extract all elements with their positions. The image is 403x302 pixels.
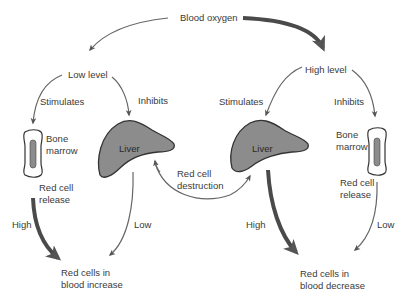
right-result-line2: blood decrease: [300, 280, 365, 292]
arrow-oxygen-to-high: [243, 18, 323, 48]
right-stimulates-label: Stimulates: [219, 96, 263, 108]
right-inhibits-label: Inhibits: [334, 96, 364, 108]
destruction-line1: Red cell: [177, 168, 223, 180]
left-result-label: Red cells in blood increase: [61, 267, 123, 290]
left-low-label: Low: [134, 219, 151, 231]
right-release-line1: Red cell: [340, 177, 374, 189]
arrow-low-inhibits: [112, 77, 129, 115]
right-release-label: Red cell release: [340, 177, 374, 200]
red-cell-destruction-label: Red cell destruction: [177, 168, 223, 191]
right-liver-label: Liver: [252, 143, 273, 155]
left-bone-marrow-label: Bone marrow: [46, 133, 78, 156]
left-liver-label: Liver: [119, 143, 140, 155]
bone-marrow-right-icon: [368, 128, 387, 176]
bone-marrow-left-icon: [24, 130, 43, 178]
right-bone-marrow-line2: marrow: [336, 141, 368, 153]
left-result-line1: Red cells in: [61, 267, 123, 279]
arrow-left-low: [110, 172, 133, 255]
blood-oxygen-label: Blood oxygen: [180, 12, 238, 24]
right-bone-marrow-line1: Bone: [336, 129, 368, 141]
left-stimulates-label: Stimulates: [40, 96, 84, 108]
low-level-label: Low level: [68, 69, 108, 81]
left-release-label: Red cell release: [39, 182, 73, 205]
left-inhibits-label: Inhibits: [138, 95, 168, 107]
left-bone-marrow-line1: Bone: [46, 133, 78, 145]
right-bone-marrow-label: Bone marrow: [336, 129, 368, 152]
left-bone-marrow-line2: marrow: [46, 145, 78, 157]
arrow-high-inhibits: [352, 70, 375, 116]
destruction-line2: destruction: [177, 180, 223, 192]
left-result-line2: blood increase: [61, 279, 123, 291]
high-level-label: High level: [305, 64, 347, 76]
arrow-left-high: [33, 198, 58, 258]
right-low-label: Low: [377, 219, 394, 231]
arrow-oxygen-to-low: [90, 18, 168, 50]
left-release-line1: Red cell: [39, 182, 73, 194]
right-result-line1: Red cells in: [300, 268, 365, 280]
left-high-label: High: [12, 219, 32, 231]
arrow-high-stimulates: [266, 67, 302, 115]
right-result-label: Red cells in blood decrease: [300, 268, 365, 291]
right-release-line2: release: [340, 189, 374, 201]
right-high-label: High: [246, 219, 266, 231]
arrow-right-high: [268, 170, 296, 252]
left-release-line2: release: [39, 194, 73, 206]
